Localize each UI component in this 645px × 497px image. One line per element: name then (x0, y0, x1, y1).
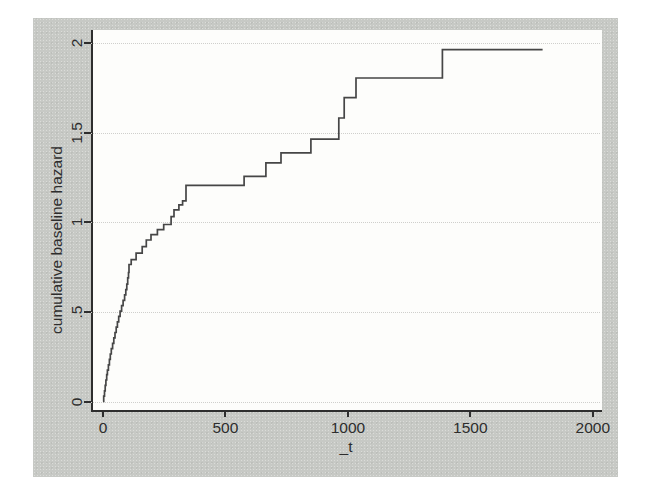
curve-layer (0, 0, 645, 497)
hazard-step-curve (103, 50, 543, 402)
figure-canvas: 0.511.520500100015002000 cumulative base… (0, 0, 645, 497)
